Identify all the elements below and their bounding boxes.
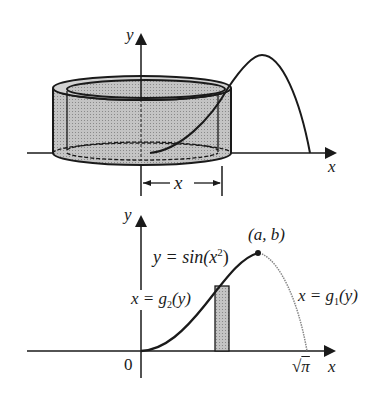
top-y-axis-label: y	[126, 26, 134, 43]
g2-label: x = g2(y)	[131, 290, 191, 310]
bottom-x-axis-label: x	[328, 358, 336, 375]
shell-strip	[215, 286, 229, 351]
point-ab-label: (a, b)	[248, 226, 285, 243]
curve-equation-label: y = sin(x2)	[153, 247, 229, 266]
diagram-canvas	[0, 0, 378, 405]
top-x-axis-label: x	[328, 158, 336, 175]
dimension-label: x	[174, 173, 182, 192]
bottom-y-axis-label: y	[124, 206, 132, 223]
g1-label: x = g1(y)	[298, 287, 358, 307]
shell-top-inner	[67, 80, 225, 98]
origin-label: 0	[124, 356, 133, 373]
sqrt-pi-label: √π	[292, 358, 310, 375]
max-point	[255, 250, 261, 256]
